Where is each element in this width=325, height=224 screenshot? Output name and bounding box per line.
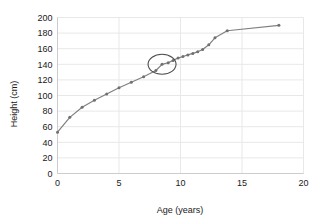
y-tick-label: 140	[37, 60, 52, 70]
data-point-marker	[207, 43, 210, 46]
data-point-marker	[191, 52, 194, 55]
data-point-marker	[68, 116, 71, 119]
x-tick-label: 20	[298, 178, 308, 188]
data-point-marker	[213, 36, 216, 39]
y-tick-label: 160	[37, 44, 52, 54]
data-point-marker	[161, 63, 164, 66]
data-point-marker	[186, 53, 189, 56]
chart-canvas: 020406080100120140160180200 05101520 Hei…	[0, 0, 325, 224]
data-point-marker	[154, 69, 157, 72]
y-tick-label: 80	[42, 106, 52, 116]
data-point-marker	[181, 55, 184, 58]
data-point-marker	[105, 92, 108, 95]
x-tick-label: 15	[237, 178, 247, 188]
data-point-marker	[196, 50, 199, 53]
data-point-marker	[56, 131, 59, 134]
data-point-marker	[142, 75, 145, 78]
y-tick-label: 0	[47, 169, 52, 179]
y-tick-label: 60	[42, 122, 52, 132]
data-point-marker	[167, 61, 170, 64]
data-point-marker	[130, 81, 133, 84]
data-point-marker	[201, 48, 204, 51]
data-point-marker	[93, 99, 96, 102]
growth-chart: 020406080100120140160180200 05101520 Hei…	[0, 0, 325, 224]
y-tick-label: 120	[37, 75, 52, 85]
y-tick-label: 180	[37, 28, 52, 38]
data-point-marker	[177, 57, 180, 60]
y-tick-label: 40	[42, 138, 52, 148]
data-point-marker	[118, 86, 121, 89]
data-point-marker	[226, 29, 229, 32]
x-tick-label: 0	[55, 178, 60, 188]
y-tick-label: 200	[37, 13, 52, 23]
x-axis-title: Age (years)	[157, 205, 204, 215]
x-tick-label: 10	[175, 178, 185, 188]
y-tick-label: 20	[42, 153, 52, 163]
x-tick-label: 5	[116, 178, 121, 188]
y-tick-label: 100	[37, 91, 52, 101]
y-axis-title: Height (cm)	[9, 81, 19, 128]
data-point-marker	[277, 24, 280, 27]
data-point-marker	[81, 106, 84, 109]
